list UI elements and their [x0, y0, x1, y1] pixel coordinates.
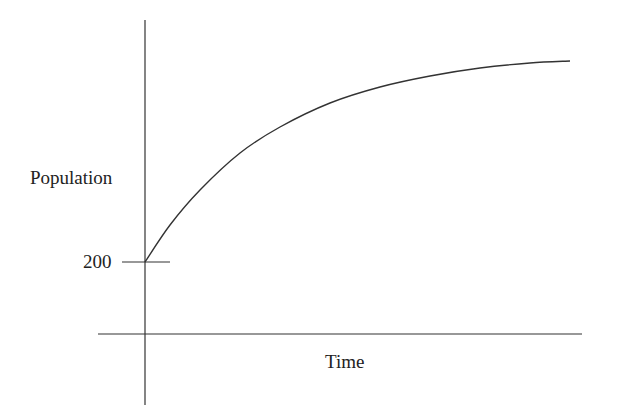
chart-canvas [0, 0, 619, 415]
y-tick-label-200: 200 [83, 251, 112, 273]
y-axis-label: Population [30, 167, 112, 189]
x-axis-label: Time [325, 351, 364, 373]
population-curve [145, 61, 570, 262]
